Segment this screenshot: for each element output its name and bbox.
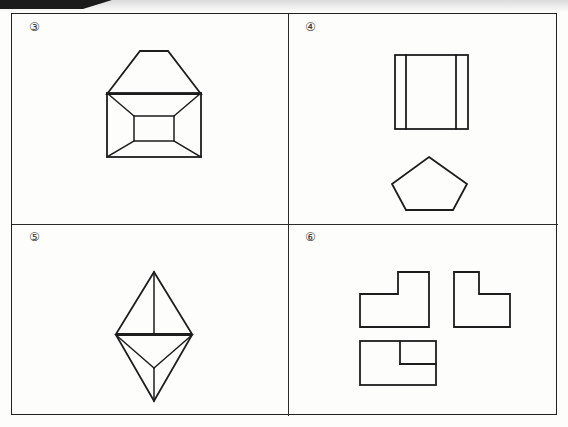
- panel-5-figure-triangle-up: [116, 272, 196, 338]
- panel-5-label: ⑤: [29, 230, 40, 244]
- panel-3-label: ③: [29, 20, 40, 34]
- diagonal-bottom-left: [107, 141, 134, 157]
- panel-3[interactable]: ③: [12, 14, 288, 224]
- panel-5-figure-triangle-down: [116, 335, 196, 405]
- panel-4[interactable]: ④: [288, 14, 558, 224]
- worksheet-frame: ③ ④: [11, 13, 557, 415]
- spoke-right: [154, 335, 192, 368]
- scan-edge-artifact: [0, 0, 112, 9]
- panel-3-figure-rectangle: [101, 93, 209, 163]
- spoke-left: [116, 335, 154, 368]
- panel-4-figure-pentagon: [392, 157, 474, 215]
- panel-5[interactable]: ⑤: [12, 224, 288, 416]
- panel-4-label: ④: [305, 20, 316, 34]
- panel-6[interactable]: ⑥: [288, 224, 558, 416]
- l-shape-left-view: [360, 272, 429, 327]
- pentagon-view: [392, 157, 467, 210]
- panel-6-label: ⑥: [305, 230, 316, 244]
- diagonal-top-left: [107, 93, 134, 116]
- l-shape-right-view: [454, 272, 510, 327]
- rectangle-top-view-inner: [134, 116, 174, 141]
- worksheet-page: ③ ④: [0, 0, 568, 427]
- rect-notch-outer: [360, 341, 436, 385]
- panel-6-figure-l-left: [360, 272, 434, 332]
- panel-6-figure-l-right: [454, 272, 516, 332]
- rectangle-top-view-outer: [107, 93, 201, 157]
- diagonal-bottom-right: [174, 141, 201, 157]
- trapezoid-front-view: [107, 51, 201, 94]
- panel-3-figure-trapezoid: [101, 46, 209, 100]
- panel-4-figure-square: [395, 55, 475, 135]
- diagonal-top-right: [174, 93, 201, 116]
- panel-6-figure-rect-notch: [360, 341, 442, 391]
